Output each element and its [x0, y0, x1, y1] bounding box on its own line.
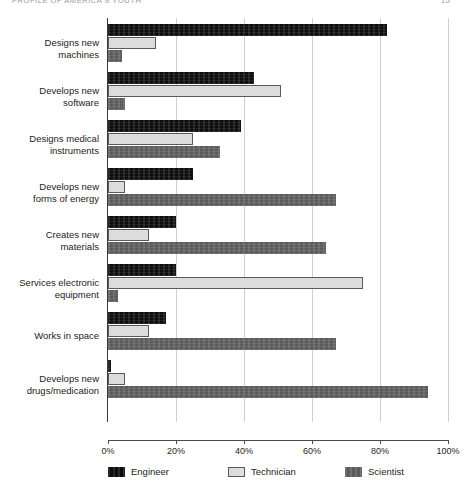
- bar-group: Designs medical instruments: [108, 120, 448, 168]
- bar-scientist: [108, 194, 336, 206]
- bar-technician: [108, 37, 156, 49]
- category-label: Develops new drugs/medication: [0, 373, 99, 396]
- bar-technician: [108, 373, 125, 385]
- legend-label: Technician: [251, 466, 296, 477]
- bar-technician: [108, 181, 125, 193]
- category-label: Develops new forms of energy: [0, 181, 99, 204]
- x-tick-mark: [244, 440, 245, 444]
- plot-area: Designs new machinesDevelops new softwar…: [108, 18, 448, 422]
- chart-legend: EngineerTechnicianScientist: [0, 466, 463, 482]
- x-tick-label: 0%: [101, 446, 114, 456]
- bar-technician: [108, 325, 149, 337]
- bar-engineer: [108, 120, 241, 132]
- legend-item-technician[interactable]: Technician: [228, 466, 296, 477]
- bar-group: Develops new drugs/medication: [108, 360, 448, 408]
- category-label: Works in space: [0, 330, 99, 342]
- bar-technician: [108, 229, 149, 241]
- bar-group: Services electronic equipment: [108, 264, 448, 312]
- legend-label: Engineer: [131, 466, 169, 477]
- category-label: Develops new software: [0, 85, 99, 108]
- legend-item-scientist[interactable]: Scientist: [345, 466, 404, 477]
- bar-engineer: [108, 24, 387, 36]
- page-number: 15: [441, 0, 450, 5]
- page-running-head: PROFILE OF AMERICA'S YOUTH 15: [0, 0, 463, 9]
- running-head-title: PROFILE OF AMERICA'S YOUTH: [12, 0, 141, 5]
- category-label: Services electronic equipment: [0, 277, 99, 300]
- gridline-100: [448, 18, 449, 422]
- x-tick-label: 40%: [235, 446, 253, 456]
- legend-swatch-icon: [228, 467, 245, 477]
- category-label: Designs new machines: [0, 37, 99, 60]
- bar-engineer: [108, 168, 193, 180]
- legend-swatch-icon: [108, 467, 125, 477]
- grouped-bar-chart: Designs new machinesDevelops new softwar…: [0, 18, 463, 438]
- legend-item-engineer[interactable]: Engineer: [108, 466, 169, 477]
- chart-page: { "header": { "running_head": "PROFILE O…: [0, 0, 463, 502]
- bar-group: Works in space: [108, 312, 448, 360]
- bar-engineer: [108, 312, 166, 324]
- bar-technician: [108, 277, 363, 289]
- x-tick-mark: [312, 440, 313, 444]
- x-tick-label: 100%: [436, 446, 459, 456]
- bar-group: Develops new software: [108, 72, 448, 120]
- legend-swatch-icon: [345, 467, 362, 477]
- legend-label: Scientist: [368, 466, 404, 477]
- x-tick-label: 80%: [371, 446, 389, 456]
- x-tick-mark: [448, 440, 449, 444]
- x-tick-mark: [108, 440, 109, 444]
- bar-group: Creates new materials: [108, 216, 448, 264]
- bar-scientist: [108, 98, 125, 110]
- category-label: Designs medical instruments: [0, 133, 99, 156]
- bar-scientist: [108, 50, 122, 62]
- bar-engineer: [108, 216, 176, 228]
- bar-scientist: [108, 290, 118, 302]
- bar-group: Designs new machines: [108, 24, 448, 72]
- x-tick-mark: [176, 440, 177, 444]
- bar-scientist: [108, 386, 428, 398]
- bar-group: Develops new forms of energy: [108, 168, 448, 216]
- bar-scientist: [108, 242, 326, 254]
- bar-technician: [108, 133, 193, 145]
- bar-scientist: [108, 146, 220, 158]
- bar-technician: [108, 85, 281, 97]
- x-tick-label: 20%: [167, 446, 185, 456]
- bar-scientist: [108, 338, 336, 350]
- bar-engineer: [108, 72, 254, 84]
- bar-engineer: [108, 264, 176, 276]
- bar-engineer: [108, 360, 111, 372]
- x-axis-line: [108, 440, 448, 441]
- category-label: Creates new materials: [0, 229, 99, 252]
- x-tick-mark: [380, 440, 381, 444]
- x-tick-label: 60%: [303, 446, 321, 456]
